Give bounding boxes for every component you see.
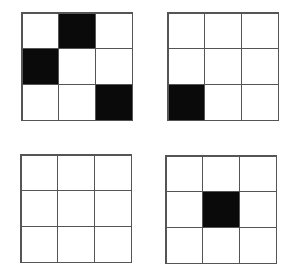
empty-cell-r0-c0 (22, 13, 60, 50)
filled-cell-r1-c1 (202, 191, 240, 228)
empty-cell-r0-c2 (239, 156, 277, 193)
empty-cell-r2-c2 (239, 227, 277, 264)
filled-cell-r2-c0 (168, 84, 206, 121)
empty-cell-r0-c2 (95, 13, 133, 50)
filled-cell-r1-c0 (22, 48, 60, 85)
empty-cell-r2-c0 (21, 226, 59, 263)
empty-cell-r1-c1 (57, 190, 95, 227)
empty-cell-r2-c1 (202, 227, 240, 264)
grid-top-right (167, 12, 279, 121)
empty-cell-r0-c1 (202, 156, 240, 193)
grid-bottom-left (20, 154, 132, 263)
empty-cell-r2-c0 (22, 84, 60, 121)
empty-cell-r2-c1 (58, 84, 96, 121)
empty-cell-r1-c0 (168, 48, 206, 85)
filled-cell-r2-c2 (95, 84, 133, 121)
empty-cell-r2-c2 (94, 226, 132, 263)
empty-cell-r0-c2 (94, 155, 132, 192)
empty-cell-r1-c2 (95, 48, 133, 85)
empty-cell-r0-c0 (21, 155, 59, 192)
filled-cell-r0-c1 (58, 13, 96, 50)
empty-cell-r1-c1 (58, 48, 96, 85)
empty-cell-r2-c2 (241, 84, 279, 121)
empty-cell-r0-c1 (204, 13, 242, 50)
empty-cell-r1-c0 (166, 191, 204, 228)
grid-top-left (21, 12, 133, 121)
empty-cell-r0-c0 (168, 13, 206, 50)
empty-cell-r1-c0 (21, 190, 59, 227)
empty-cell-r0-c0 (166, 156, 204, 193)
empty-cell-r2-c1 (204, 84, 242, 121)
grid-bottom-right (165, 155, 277, 264)
empty-cell-r2-c1 (57, 226, 95, 263)
empty-cell-r2-c0 (166, 227, 204, 264)
empty-cell-r1-c2 (94, 190, 132, 227)
empty-cell-r1-c2 (239, 191, 277, 228)
empty-cell-r1-c2 (241, 48, 279, 85)
empty-cell-r0-c1 (57, 155, 95, 192)
empty-cell-r1-c1 (204, 48, 242, 85)
empty-cell-r0-c2 (241, 13, 279, 50)
